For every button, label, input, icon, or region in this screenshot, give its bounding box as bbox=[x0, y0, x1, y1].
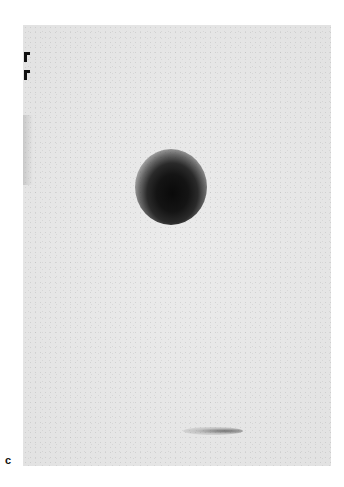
corner-marker-icon bbox=[24, 52, 30, 62]
panel-label: c bbox=[5, 454, 11, 466]
scintigraphy-image bbox=[23, 25, 331, 466]
focal-uptake-hotspot bbox=[135, 149, 207, 225]
left-edge-artifact bbox=[23, 115, 33, 185]
faint-lower-artifact bbox=[183, 427, 243, 435]
corner-marker-icon bbox=[24, 70, 30, 80]
image-noise-texture bbox=[23, 25, 331, 466]
